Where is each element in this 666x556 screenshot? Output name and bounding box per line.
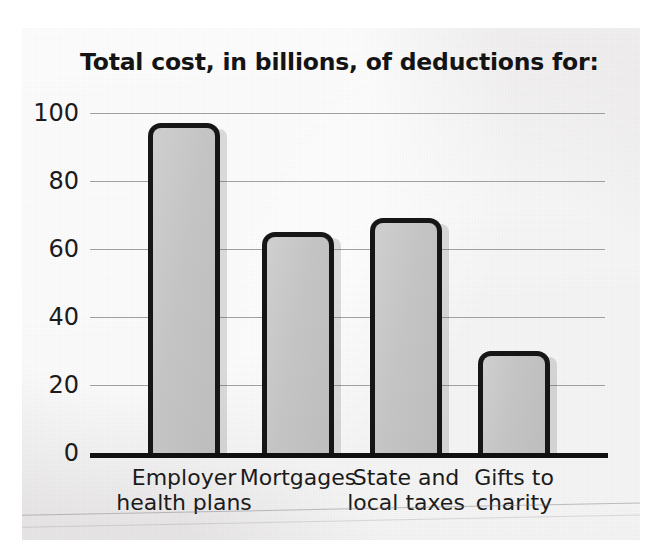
y-axis-tick-label: 20 — [48, 371, 79, 399]
bar-1[interactable] — [148, 123, 220, 453]
bar-rect — [478, 351, 550, 453]
bar-rect — [262, 232, 334, 453]
y-axis-tick-label: 100 — [33, 99, 79, 127]
y-axis-tick-label: 80 — [48, 167, 79, 195]
y-axis-tick-label: 0 — [64, 439, 79, 467]
y-axis-tick-label: 60 — [48, 235, 79, 263]
y-axis-tick-label: 40 — [48, 303, 79, 331]
bar-rect — [370, 218, 442, 453]
bar-rect — [148, 123, 220, 453]
plot-area: 100806040200 Employer health plansMortga… — [90, 113, 608, 453]
x-axis-line — [90, 453, 608, 458]
bar-4[interactable] — [478, 351, 550, 453]
bar-2[interactable] — [262, 232, 334, 453]
bar-3[interactable] — [370, 218, 442, 453]
chart-title: Total cost, in billions, of deductions f… — [80, 48, 599, 76]
x-axis-category-label: Gifts to charity — [424, 465, 604, 515]
chart-panel: Total cost, in billions, of deductions f… — [22, 28, 640, 540]
gridline-100 — [90, 113, 605, 114]
